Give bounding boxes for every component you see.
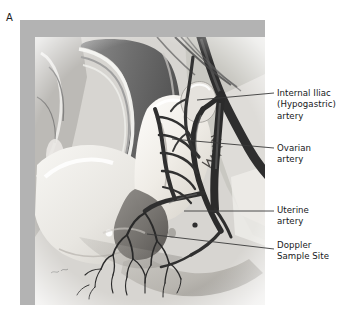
anatomical-illustration: [35, 37, 265, 305]
callout-uterine-artery: Uterine artery: [277, 205, 309, 228]
anatomy-drawing: [35, 37, 265, 305]
illustration-frame: [20, 20, 265, 305]
panel-letter: A: [6, 13, 13, 23]
callout-internal-iliac-artery: Internal Iliac (Hypogastric) artery: [277, 88, 336, 122]
callout-ovarian-artery: Ovarian artery: [277, 143, 311, 166]
figure-root: A: [0, 0, 356, 327]
illustration-vignette: [35, 37, 265, 305]
callout-doppler-sample-site: Doppler Sample Site: [277, 240, 329, 263]
